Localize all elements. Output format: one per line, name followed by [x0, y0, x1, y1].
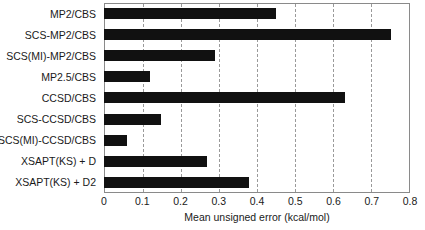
bar-row — [104, 130, 410, 151]
category-label: SCS(MI)-CCSD/CBS — [0, 130, 100, 151]
category-label: MP2/CBS — [0, 3, 100, 24]
bar — [104, 92, 345, 103]
bar — [104, 50, 215, 61]
bar — [104, 135, 127, 146]
bar-row — [104, 151, 410, 172]
category-label: SCS(MI)-MP2/CBS — [0, 45, 100, 66]
x-tick-label: 0.1 — [135, 195, 150, 207]
category-label: SCS-CCSD/CBS — [0, 108, 100, 129]
x-tick-label: 0.7 — [364, 195, 379, 207]
bars-layer — [104, 3, 410, 193]
bar-row — [104, 108, 410, 129]
bar-row — [104, 45, 410, 66]
bar — [104, 29, 391, 40]
bar — [104, 71, 150, 82]
bar — [104, 156, 207, 167]
category-label: XSAPT(KS) + D — [0, 151, 100, 172]
category-label: SCS-MP2/CBS — [0, 24, 100, 45]
bar-row — [104, 172, 410, 193]
bar-row — [104, 87, 410, 108]
x-axis-title: Mean unsigned error (kcal/mol) — [104, 211, 410, 223]
x-tick-label: 0.2 — [173, 195, 188, 207]
bar — [104, 114, 161, 125]
bar-row — [104, 3, 410, 24]
category-label: XSAPT(KS) + D2 — [0, 172, 100, 193]
x-tick-label: 0.4 — [250, 195, 265, 207]
x-axis-tick-labels: 0 0.1 0.2 0.3 0.4 0.5 0.6 0.7 0.8 — [104, 195, 410, 211]
x-tick-label: 0.6 — [326, 195, 341, 207]
x-tick-label: 0.5 — [288, 195, 303, 207]
bar-row — [104, 24, 410, 45]
x-tick-label: 0 — [101, 195, 107, 207]
bar — [104, 8, 276, 19]
x-tick-label: 0.3 — [211, 195, 226, 207]
category-label: MP2.5/CBS — [0, 66, 100, 87]
category-axis-labels: MP2/CBS SCS-MP2/CBS SCS(MI)-MP2/CBS MP2.… — [0, 3, 100, 193]
bar-row — [104, 66, 410, 87]
bar — [104, 177, 249, 188]
x-tick-label: 0.8 — [403, 195, 418, 207]
category-label: CCSD/CBS — [0, 87, 100, 108]
bar-chart: MP2/CBS SCS-MP2/CBS SCS(MI)-MP2/CBS MP2.… — [0, 0, 425, 230]
